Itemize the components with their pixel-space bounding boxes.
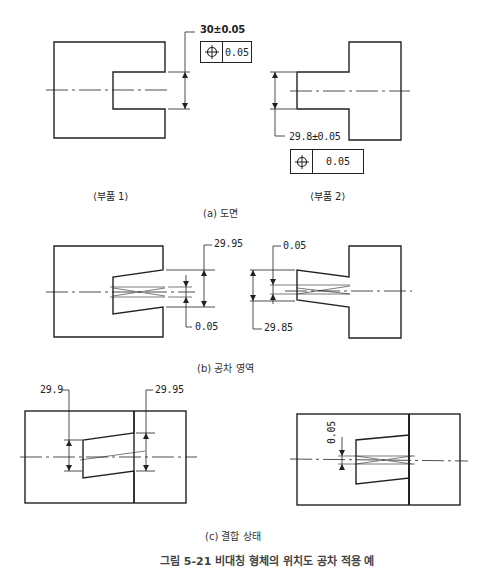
part2-tolerance-value: 0.05	[313, 150, 363, 173]
part2-tolerance-outline	[297, 246, 401, 338]
caption-a: (a) 도면	[203, 205, 238, 220]
part2-zone-dim: 0.05	[283, 240, 306, 251]
part1-tolerance-outline	[54, 246, 163, 337]
assembly-dim-left: 29.9	[40, 384, 63, 395]
assembly-zone-dim: 0.05	[326, 421, 337, 444]
part1-feature-control-frame: 0.05	[200, 41, 252, 63]
figure-caption: 그림 5-21 비대칭 형체의 위치도 공차 적용 예	[160, 552, 374, 568]
part2-feature-control-frame: 0.05	[290, 149, 364, 174]
part2-dimension: 29.8±0.05	[289, 131, 341, 142]
part1-dimension: 30±0.05	[200, 24, 245, 35]
caption-c: (c) 결합 상태	[205, 528, 261, 543]
part1-tolerance-value: 0.05	[223, 42, 251, 62]
assembly-dim-right: 29.95	[155, 384, 184, 395]
position-icon	[291, 150, 313, 173]
position-icon	[201, 42, 223, 62]
caption-b: (b) 공차 영역	[197, 360, 254, 375]
part1-label: ⟨부품 1⟩	[93, 188, 128, 203]
part1-zone-dim: 0.05	[195, 321, 218, 332]
part2-outer-dim: 29.85	[264, 322, 293, 333]
part1-outer-dim: 29.95	[214, 238, 243, 249]
part2-label: ⟨부품 2⟩	[310, 188, 345, 203]
